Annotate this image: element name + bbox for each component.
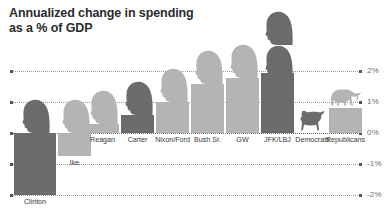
head-silhouette-icon [88,90,118,124]
category-label-clinton: Clinton [5,197,65,206]
plot-area: 2%1%0%-1%-2% ClintonIkeReaganCarterNixon… [0,0,389,221]
axis-tick-right [359,163,362,166]
bar-bush-sr[interactable] [191,84,224,133]
axis-tick-right [359,194,362,197]
elephant-icon [329,88,363,108]
axis-tick-left [10,70,13,73]
head-silhouette-icon [228,44,258,78]
gridline-neg2 [12,195,362,196]
bar-reagan[interactable] [86,124,119,133]
bar-gw[interactable] [226,78,259,133]
axis-tick-right [359,70,362,73]
head-silhouette-icon [20,99,50,133]
axis-label-neg2: -2% [367,190,382,199]
donkey-icon [297,111,327,132]
bar-nixon-ford[interactable] [156,102,189,133]
head-silhouette-icon [60,99,90,133]
axis-tick-left [10,101,13,104]
spending-chart: Annualized change in spending as a % of … [0,0,389,221]
axis-tick-left [10,132,13,135]
head-silhouette-double-icon [263,11,293,79]
axis-label-1: 1% [367,97,379,106]
category-label-republicans: Republicans [316,135,376,144]
axis-label-neg1: -1% [367,159,382,168]
bar-jfk-lbj[interactable] [261,73,294,133]
category-label-ike: Ike [45,158,105,167]
head-silhouette-icon [193,50,223,84]
head-silhouette-icon [158,68,188,102]
bar-carter[interactable] [121,115,154,133]
axis-tick-left [10,163,13,166]
axis-label-2: 2% [367,66,379,75]
bar-republicans[interactable] [329,108,362,133]
head-silhouette-icon [123,81,153,115]
